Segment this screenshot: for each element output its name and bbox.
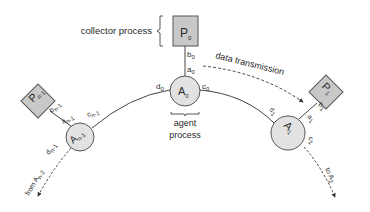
- port-a1: a1: [305, 113, 317, 125]
- port-b0: b0: [187, 50, 195, 60]
- port-c1: c1: [305, 135, 317, 146]
- data-transmission-label: data transmission: [215, 50, 286, 77]
- agent-bracket: [171, 112, 199, 116]
- agent-a0[interactable]: A0: [170, 76, 200, 106]
- agent-caption-line1: agent: [174, 118, 197, 128]
- port-c0: c0: [202, 82, 210, 92]
- ring-topology-diagram: collector process P0 b0 a0 A0 d0 c0 agen…: [0, 0, 370, 212]
- process-pn-1[interactable]: [21, 84, 55, 118]
- collector-bracket: [157, 16, 163, 46]
- collector-label: collector process: [81, 25, 153, 36]
- incoming-label: from An-2: [24, 167, 47, 197]
- agent-caption-line2: process: [169, 130, 201, 140]
- port-d1: d1: [267, 106, 279, 118]
- process-p0[interactable]: P0: [173, 16, 198, 46]
- port-cn-1: cn-1: [86, 107, 101, 120]
- ring-link-right: [200, 90, 274, 123]
- agent-a1[interactable]: A1: [271, 116, 305, 150]
- port-a0: a0: [187, 65, 195, 75]
- port-dn-1: dn-1: [44, 141, 59, 157]
- data-transmission-arrow: [203, 66, 303, 102]
- port-d0: d0: [156, 82, 164, 92]
- ring-link-left: [92, 90, 170, 128]
- agent-an-1[interactable]: An-1: [66, 123, 94, 151]
